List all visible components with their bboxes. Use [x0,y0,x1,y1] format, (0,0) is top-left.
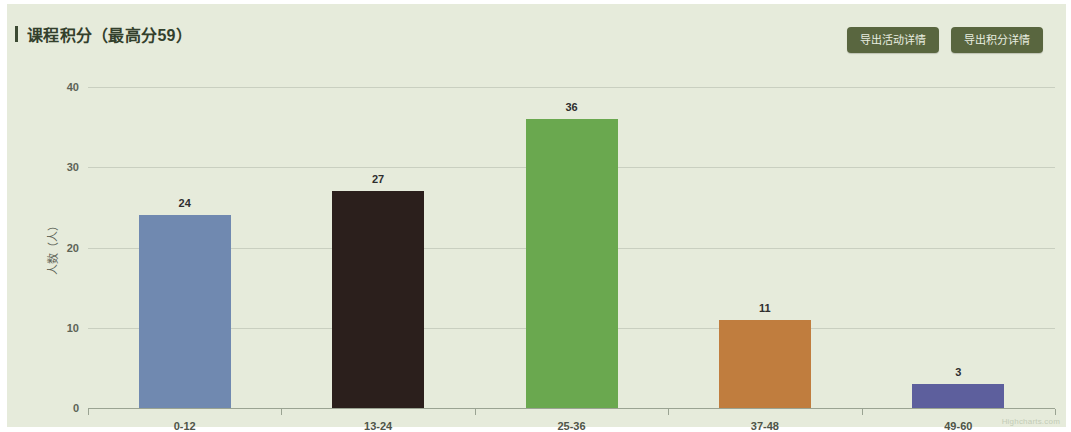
x-axis-tick-mark [475,409,476,415]
highcharts-watermark: Highcharts.com [1002,417,1060,426]
bar-value-label: 27 [372,173,384,185]
bar-value-label: 3 [955,366,961,378]
bar-value-label: 11 [759,302,771,314]
y-axis-tick-labels: 010203040 [47,87,79,408]
panel-background: 课程积分（最高分59） 导出活动详情 导出积分详情 人数（人） 01020304… [7,4,1066,427]
bar-value-label: 24 [179,197,191,209]
export-points-detail-button[interactable]: 导出积分详情 [951,27,1043,53]
x-axis-tick-mark [862,409,863,415]
x-axis-tick-label: 25-36 [557,420,585,432]
y-axis-tick-label: 20 [67,242,79,254]
grid-line [88,87,1055,88]
y-axis-tick-label: 0 [73,402,79,414]
bar-49-60[interactable] [912,384,1004,408]
x-axis-tick-label: 0-12 [174,420,196,432]
bar-37-48[interactable] [719,320,811,408]
bar-0-12[interactable] [139,215,231,408]
bar-value-label: 36 [565,101,577,113]
y-axis-tick-label: 10 [67,322,79,334]
x-axis-tick-label: 37-48 [751,420,779,432]
y-axis-tick-label: 40 [67,81,79,93]
x-axis-tick-label: 49-60 [944,420,972,432]
x-axis-tick-label: 13-24 [364,420,392,432]
header-actions: 导出活动详情 导出积分详情 [847,27,1043,53]
x-axis-tick-mark [1055,409,1056,415]
panel-title-wrap: 课程积分（最高分59） [15,22,192,46]
title-accent-bar [15,26,18,42]
x-axis-line [88,408,1055,409]
panel-header: 课程积分（最高分59） 导出活动详情 导出积分详情 [7,4,1066,66]
bar-13-24[interactable] [332,191,424,408]
x-axis-tick-mark [281,409,282,415]
export-activity-detail-button[interactable]: 导出活动详情 [847,27,939,53]
bar-25-36[interactable] [526,119,618,408]
x-axis-tick-mark [88,409,89,415]
page-title: 课程积分（最高分59） [27,22,192,46]
y-axis-tick-label: 30 [67,161,79,173]
chart-area: 人数（人） 010203040 242736113 0-1213-2425-36… [7,66,1066,427]
x-axis-tick-mark [668,409,669,415]
plot-area: 242736113 [88,87,1055,408]
